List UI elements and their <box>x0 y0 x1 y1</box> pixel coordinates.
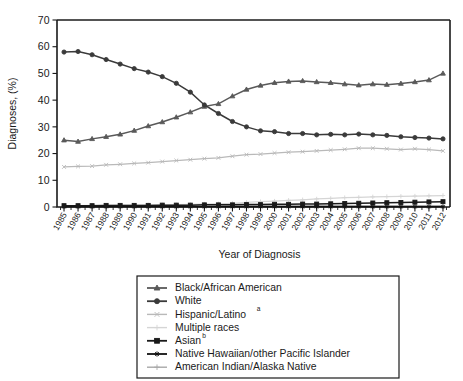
data-point-marker <box>62 138 67 142</box>
data-point-marker <box>441 137 445 141</box>
data-point-marker <box>329 202 333 206</box>
data-point-marker <box>385 194 389 198</box>
data-point-marker <box>160 203 164 207</box>
data-point-marker <box>413 135 417 139</box>
data-point-marker <box>371 201 375 205</box>
y-tick-label: 60 <box>38 40 50 52</box>
data-point-marker <box>385 201 389 205</box>
data-point-marker <box>427 200 431 204</box>
data-point-marker <box>441 205 445 209</box>
data-point-marker <box>427 78 432 82</box>
data-point-marker <box>146 124 151 128</box>
data-point-marker <box>343 195 347 199</box>
data-point-marker <box>230 119 234 123</box>
legend-label: Hispanic/Latino <box>175 309 246 320</box>
data-point-marker <box>154 351 159 356</box>
data-point-marker <box>76 49 80 53</box>
x-tick-label: 2012 <box>430 210 448 232</box>
data-point-marker <box>385 205 389 209</box>
axis-lines <box>57 20 450 207</box>
data-point-marker <box>315 133 319 137</box>
data-point-marker <box>287 202 291 206</box>
data-point-marker <box>357 132 361 136</box>
data-point-marker <box>343 202 347 206</box>
data-point-marker <box>118 203 122 207</box>
data-point-marker <box>399 200 403 204</box>
data-point-marker <box>216 111 220 115</box>
y-axis-title: Diagnoses, (%) <box>6 78 18 150</box>
data-point-marker <box>427 136 431 140</box>
data-point-marker <box>413 79 418 83</box>
data-point-marker <box>300 78 305 82</box>
data-point-marker <box>441 193 445 197</box>
data-point-marker <box>384 82 389 86</box>
y-tick-label: 30 <box>38 121 50 133</box>
data-point-marker <box>273 202 277 206</box>
data-point-marker <box>188 203 192 207</box>
data-point-marker <box>314 79 319 83</box>
data-point-marker <box>230 94 235 98</box>
data-point-marker <box>244 87 249 91</box>
data-point-marker <box>328 80 333 84</box>
data-point-marker <box>441 200 445 204</box>
y-tick-label: 70 <box>38 14 50 26</box>
data-point-marker <box>104 203 108 207</box>
data-point-marker <box>154 299 159 304</box>
series-2 <box>62 146 445 169</box>
data-point-marker <box>398 81 403 85</box>
y-tick-label: 10 <box>38 174 50 186</box>
y-axis: 010203040506070 <box>38 14 57 213</box>
data-point-marker <box>413 194 417 198</box>
data-point-marker <box>441 71 446 75</box>
x-tick-label: 2010 <box>402 210 420 232</box>
y-tick-label: 20 <box>38 147 50 159</box>
data-point-marker <box>62 204 66 208</box>
data-point-marker <box>356 83 361 87</box>
data-point-marker <box>258 83 263 87</box>
data-point-marker <box>370 82 375 86</box>
legend-label: White <box>175 295 202 306</box>
data-point-marker <box>329 196 333 200</box>
data-point-marker <box>244 203 248 207</box>
data-point-marker <box>146 203 150 207</box>
data-point-marker <box>314 197 318 201</box>
data-point-marker <box>230 203 234 207</box>
legend-superscript: b <box>202 332 206 339</box>
data-point-marker <box>104 57 108 61</box>
data-point-marker <box>286 131 290 135</box>
data-point-marker <box>399 194 403 198</box>
data-point-marker <box>342 82 347 86</box>
chart-figure: 010203040506070Diagnoses, (%)19851986198… <box>0 0 463 381</box>
series-1 <box>62 49 445 141</box>
data-point-marker <box>343 133 347 137</box>
data-point-marker <box>90 53 94 57</box>
data-point-marker <box>160 75 164 79</box>
data-point-marker <box>315 202 319 206</box>
data-point-marker <box>427 194 431 198</box>
legend-label: Multiple races <box>175 322 239 333</box>
x-axis-title: Year of Diagnosis <box>219 248 301 260</box>
y-tick-label: 0 <box>44 201 50 213</box>
data-point-marker <box>301 202 305 206</box>
data-point-marker <box>160 120 165 124</box>
data-point-marker <box>188 110 193 114</box>
y-tick-label: 40 <box>38 94 50 106</box>
legend-label: Native Hawaiian/other Pacific Islander <box>175 348 351 359</box>
data-point-marker <box>300 198 304 202</box>
legend-item[interactable]: Native Hawaiian/other Pacific Islander <box>147 348 351 359</box>
data-point-marker <box>216 203 220 207</box>
data-point-marker <box>399 135 403 139</box>
data-point-marker <box>301 131 305 135</box>
data-point-marker <box>258 129 262 133</box>
legend-superscript: a <box>257 305 261 312</box>
data-point-marker <box>132 203 136 207</box>
data-point-marker <box>174 203 178 207</box>
data-point-marker <box>62 50 66 54</box>
data-point-marker <box>272 80 277 84</box>
data-point-marker <box>174 115 179 119</box>
data-point-marker <box>118 62 122 66</box>
data-point-marker <box>76 139 81 143</box>
plot-frame <box>57 20 450 207</box>
data-point-marker <box>155 338 160 343</box>
legend-label: American Indian/Alaska Native <box>175 361 317 372</box>
